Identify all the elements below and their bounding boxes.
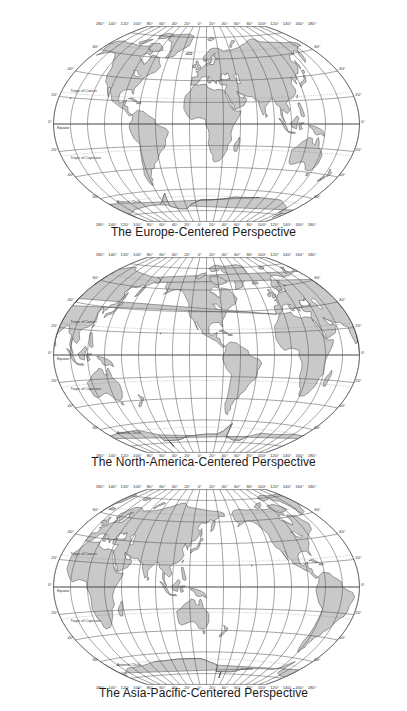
svg-text:60°: 60°: [92, 507, 99, 512]
svg-text:40°: 40°: [339, 297, 346, 302]
svg-text:Tropic of Capricorn: Tropic of Capricorn: [71, 156, 101, 160]
svg-text:20°: 20°: [51, 555, 58, 560]
svg-text:60°: 60°: [314, 657, 321, 662]
svg-text:60°: 60°: [234, 21, 241, 26]
svg-text:180°: 180°: [308, 484, 317, 489]
svg-text:60°: 60°: [314, 425, 321, 430]
svg-text:40°: 40°: [339, 66, 346, 71]
svg-text:0°: 0°: [198, 252, 202, 257]
svg-text:20°: 20°: [184, 252, 191, 257]
svg-text:100°: 100°: [133, 21, 142, 26]
svg-text:Tropic of Capricorn: Tropic of Capricorn: [71, 619, 101, 623]
svg-text:140°: 140°: [108, 484, 117, 489]
svg-text:60°: 60°: [314, 194, 321, 199]
svg-text:80°: 80°: [147, 252, 154, 257]
svg-text:20°: 20°: [209, 252, 216, 257]
svg-text:140°: 140°: [108, 21, 117, 26]
svg-text:40°: 40°: [222, 484, 229, 489]
svg-text:20°: 20°: [51, 323, 58, 328]
svg-text:20°: 20°: [355, 147, 362, 152]
svg-text:40°: 40°: [339, 172, 346, 177]
svg-text:40°: 40°: [339, 529, 346, 534]
svg-text:60°: 60°: [92, 44, 99, 49]
svg-text:40°: 40°: [68, 529, 75, 534]
svg-text:20°: 20°: [184, 484, 191, 489]
svg-text:120°: 120°: [270, 484, 279, 489]
svg-text:0°: 0°: [198, 21, 202, 26]
svg-text:40°: 40°: [68, 172, 75, 177]
svg-text:60°: 60°: [234, 484, 241, 489]
svg-text:80°: 80°: [147, 21, 154, 26]
svg-text:Tropic of Cancer: Tropic of Cancer: [71, 320, 98, 324]
svg-text:Equator: Equator: [57, 357, 70, 361]
svg-text:60°: 60°: [92, 425, 99, 430]
svg-text:140°: 140°: [283, 21, 292, 26]
map-panel-asia-pacific-centered: 180°180°140°140°120°120°100°100°80°80°60…: [0, 468, 407, 711]
map-panel-north-america-centered: 180°180°140°140°120°120°100°100°80°80°60…: [0, 235, 407, 475]
svg-text:Tropic of Cancer: Tropic of Cancer: [71, 552, 98, 556]
svg-text:0°: 0°: [198, 484, 202, 489]
svg-text:0°: 0°: [48, 119, 52, 124]
svg-text:100°: 100°: [258, 484, 267, 489]
svg-text:60°: 60°: [159, 21, 166, 26]
svg-text:60°: 60°: [92, 194, 99, 199]
svg-text:0°: 0°: [48, 582, 52, 587]
svg-text:60°: 60°: [159, 252, 166, 257]
svg-text:Antarctic Circle: Antarctic Circle: [117, 663, 141, 667]
svg-text:40°: 40°: [68, 297, 75, 302]
svg-text:20°: 20°: [51, 92, 58, 97]
svg-text:120°: 120°: [270, 21, 279, 26]
svg-text:20°: 20°: [51, 610, 58, 615]
svg-text:40°: 40°: [222, 252, 229, 257]
svg-text:180°: 180°: [308, 21, 317, 26]
svg-text:40°: 40°: [68, 66, 75, 71]
svg-text:60°: 60°: [92, 275, 99, 280]
svg-text:20°: 20°: [184, 21, 191, 26]
svg-text:40°: 40°: [222, 21, 229, 26]
svg-text:80°: 80°: [246, 484, 253, 489]
svg-text:100°: 100°: [133, 484, 142, 489]
svg-text:140°: 140°: [283, 252, 292, 257]
svg-text:40°: 40°: [68, 635, 75, 640]
svg-text:40°: 40°: [172, 252, 179, 257]
svg-text:140°: 140°: [108, 252, 117, 257]
map-panel-europe-centered: 180°180°140°140°120°120°100°100°80°80°60…: [0, 0, 407, 240]
svg-text:140°: 140°: [283, 484, 292, 489]
svg-text:20°: 20°: [355, 323, 362, 328]
svg-text:100°: 100°: [133, 252, 142, 257]
svg-text:20°: 20°: [51, 378, 58, 383]
svg-text:100°: 100°: [258, 252, 267, 257]
svg-text:Equator: Equator: [57, 126, 70, 130]
svg-text:Antarctic Circle: Antarctic Circle: [117, 431, 141, 435]
svg-text:Antarctic Circle: Antarctic Circle: [117, 200, 141, 204]
svg-text:80°: 80°: [246, 21, 253, 26]
svg-text:60°: 60°: [314, 44, 321, 49]
svg-text:60°: 60°: [314, 275, 321, 280]
svg-text:0°: 0°: [361, 119, 365, 124]
svg-text:40°: 40°: [68, 403, 75, 408]
svg-text:160°: 160°: [295, 252, 304, 257]
svg-text:180°: 180°: [96, 252, 105, 257]
svg-text:20°: 20°: [209, 484, 216, 489]
world-map-europe-centered: 180°180°140°140°120°120°100°100°80°80°60…: [0, 0, 407, 240]
svg-text:80°: 80°: [246, 252, 253, 257]
svg-text:40°: 40°: [339, 635, 346, 640]
svg-text:20°: 20°: [355, 378, 362, 383]
world-map-north-america-centered: 180°180°140°140°120°120°100°100°80°80°60…: [0, 235, 407, 475]
svg-text:40°: 40°: [339, 403, 346, 408]
svg-text:180°: 180°: [96, 484, 105, 489]
svg-text:160°: 160°: [295, 21, 304, 26]
svg-text:180°: 180°: [308, 252, 317, 257]
svg-text:Tropic of Cancer: Tropic of Cancer: [71, 89, 98, 93]
world-map-asia-pacific-centered: 180°180°140°140°120°120°100°100°80°80°60…: [0, 468, 407, 711]
svg-text:160°: 160°: [295, 484, 304, 489]
svg-text:60°: 60°: [314, 507, 321, 512]
svg-text:120°: 120°: [121, 484, 130, 489]
svg-text:120°: 120°: [270, 252, 279, 257]
svg-text:Tropic of Capricorn: Tropic of Capricorn: [71, 387, 101, 391]
svg-text:40°: 40°: [172, 21, 179, 26]
map-caption: The Asia-Pacific-Centered Perspective: [0, 686, 407, 700]
svg-text:40°: 40°: [172, 484, 179, 489]
svg-text:60°: 60°: [159, 484, 166, 489]
svg-text:180°: 180°: [96, 21, 105, 26]
